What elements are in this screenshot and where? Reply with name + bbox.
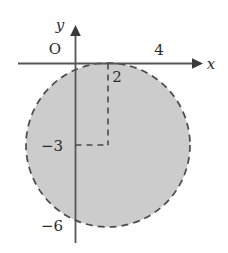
x-axis-arrowhead [192, 58, 203, 69]
circle-diagram: O y x 4 2 −3 −6 [0, 0, 228, 253]
origin-label: O [49, 40, 61, 58]
y-axis-arrowhead [70, 25, 81, 36]
y-axis-label: y [55, 16, 65, 34]
x-axis-label: x [207, 55, 216, 73]
diagram-canvas: O y x 4 2 −3 −6 [0, 0, 228, 253]
guide-label-2: 2 [112, 68, 122, 86]
x-tick-label-4: 4 [154, 41, 164, 59]
y-tick-label-minus6: −6 [41, 217, 63, 235]
y-tick-label-minus3: −3 [41, 137, 63, 155]
